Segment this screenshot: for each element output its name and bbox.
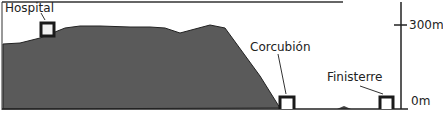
elevation-profile-diagram: Hospital Corcubión Finisterre 300m 0m <box>0 0 443 119</box>
profile-svg: Hospital Corcubión Finisterre 300m 0m <box>0 0 443 119</box>
finisterre-marker <box>380 97 393 109</box>
axis-label-0m: 0m <box>411 94 430 108</box>
axis-label-300m: 300m <box>409 18 443 32</box>
corcubion-label: Corcubión <box>250 40 311 54</box>
hospital-marker <box>41 23 54 36</box>
hospital-label: Hospital <box>5 1 54 15</box>
corcubion-marker <box>280 97 294 109</box>
finisterre-label: Finisterre <box>327 70 382 84</box>
